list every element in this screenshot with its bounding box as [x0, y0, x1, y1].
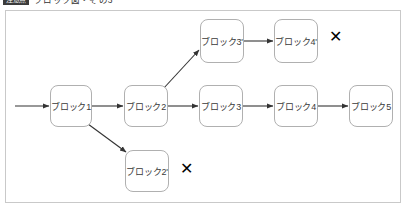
block-label: ブロック4: [276, 100, 316, 113]
header-badge: 注意点: [3, 0, 29, 5]
block-label: ブロック3: [201, 100, 241, 113]
cross-mark-icon-upper: ✕: [329, 29, 342, 45]
block-label: ブロック2: [126, 100, 166, 113]
page-title: ブロック図・その3: [34, 0, 113, 5]
block-label: ブロック3': [201, 35, 243, 48]
block-node-block3[interactable]: ブロック3: [199, 85, 243, 127]
block-node-block3-prime[interactable]: ブロック3': [200, 19, 244, 63]
block-node-block2[interactable]: ブロック2: [124, 85, 168, 127]
cross-mark-icon-lower: ✕: [180, 161, 193, 177]
block-label: ブロック1: [51, 100, 91, 113]
block-node-block4-prime[interactable]: ブロック4': [274, 19, 318, 63]
section-header: 注意点 ブロック図・その3: [0, 0, 405, 7]
block-label: ブロック4': [275, 35, 317, 48]
block-node-block1[interactable]: ブロック1: [50, 85, 92, 127]
block-node-block5[interactable]: ブロック5: [349, 85, 393, 127]
block-node-block2-prime[interactable]: ブロック2': [125, 150, 169, 192]
block-node-block4[interactable]: ブロック4: [274, 85, 318, 127]
block-label: ブロック5: [351, 100, 391, 113]
block-label: ブロック2': [126, 165, 168, 178]
screenshot-root: 注意点 ブロック図・その3 ブロック1 ブロック2 ブロック3: [0, 0, 405, 207]
